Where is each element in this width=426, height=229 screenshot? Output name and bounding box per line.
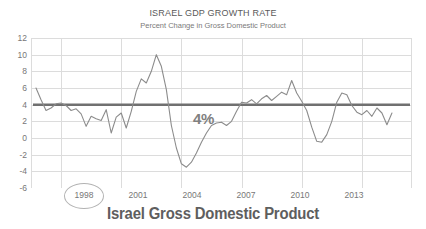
- y-tick-4: 4: [3, 101, 27, 110]
- chart-title: ISRAEL GDP GROWTH RATE: [0, 8, 426, 18]
- y-tick-2: 2: [3, 117, 27, 126]
- chart-figure: ISRAEL GDP GROWTH RATE Percent Change in…: [0, 0, 426, 229]
- y-axis: 12 10 8 6 4 2 0 -2 -4 -6: [0, 38, 27, 188]
- x-tick-2007: 2007: [224, 190, 268, 200]
- horizontal-gridlines: [31, 39, 412, 189]
- reference-line-label: 4%: [193, 110, 214, 127]
- x-tick-1998: 1998: [62, 190, 106, 200]
- x-tick-2004: 2004: [170, 190, 214, 200]
- y-tick-0: 0: [3, 134, 27, 143]
- y-tick-12: 12: [3, 34, 27, 43]
- chart-plot-svg: [31, 38, 412, 188]
- y-tick-minus-6: -6: [3, 184, 27, 193]
- x-tick-2001: 2001: [116, 190, 160, 200]
- figure-caption: Israel Gross Domestic Product: [15, 205, 411, 223]
- chart-subtitle: Percent Change in Gross Domestic Product: [0, 21, 426, 30]
- x-tick-2013: 2013: [332, 190, 376, 200]
- y-tick-minus-4: -4: [3, 167, 27, 176]
- plot-area: [31, 38, 412, 188]
- y-tick-8: 8: [3, 67, 27, 76]
- y-tick-minus-2: -2: [3, 151, 27, 160]
- x-tick-2010: 2010: [278, 190, 322, 200]
- y-tick-10: 10: [3, 51, 27, 60]
- y-tick-6: 6: [3, 84, 27, 93]
